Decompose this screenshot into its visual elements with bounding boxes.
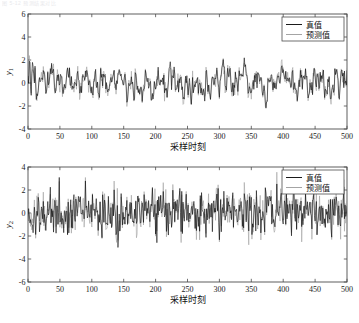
y-tick-label: 0 — [22, 79, 26, 88]
y-tick-label: 2 — [22, 56, 26, 65]
y-tick-label: 6 — [22, 10, 26, 19]
x-tick-label: 50 — [56, 132, 64, 141]
subplot-top: 050100150200250300350400450500-4-20246采样… — [0, 0, 359, 161]
x-axis-label: 采样时刻 — [170, 294, 206, 305]
x-tick-label: 350 — [245, 132, 257, 141]
legend-label: 预测值 — [306, 30, 330, 40]
legend-label: 真值 — [306, 20, 322, 30]
x-tick-label: 300 — [213, 132, 225, 141]
y-tick-label: -6 — [19, 278, 26, 287]
x-tick-label: 250 — [182, 132, 194, 141]
x-tick-label: 300 — [213, 285, 225, 294]
x-tick-label: 0 — [26, 132, 30, 141]
x-tick-label: 200 — [150, 285, 162, 294]
x-tick-label: 350 — [245, 285, 257, 294]
y-axis-label: y2 — [3, 221, 14, 229]
chart-canvas-top: 050100150200250300350400450500-4-20246采样… — [0, 0, 359, 161]
svg-text:y2: y2 — [3, 221, 14, 229]
legend: 真值预测值 — [282, 170, 344, 194]
legend-label: 真值 — [306, 173, 322, 183]
x-tick-label: 100 — [86, 285, 98, 294]
x-tick-label: 400 — [277, 285, 289, 294]
x-tick-label: 450 — [309, 285, 321, 294]
y-tick-label: -4 — [19, 125, 26, 134]
subplot-bottom: 050100150200250300350400450500-6-4-2024采… — [0, 161, 359, 322]
x-tick-label: 500 — [341, 132, 353, 141]
x-tick-label: 150 — [118, 132, 130, 141]
y-tick-label: -4 — [19, 255, 26, 264]
y-tick-label: 0 — [22, 209, 26, 218]
legend: 真值预测值 — [282, 17, 344, 41]
legend-label: 预测值 — [306, 183, 330, 193]
x-tick-label: 50 — [56, 285, 64, 294]
y-axis-label: y1 — [3, 68, 14, 76]
x-tick-label: 0 — [26, 285, 30, 294]
y-tick-label: 4 — [22, 163, 26, 172]
x-tick-label: 250 — [182, 285, 194, 294]
x-tick-label: 400 — [277, 132, 289, 141]
figure-root: 图 5-12 预测结果对比 05010015020025030035040045… — [0, 0, 359, 323]
y-tick-label: 2 — [22, 186, 26, 195]
x-tick-label: 500 — [341, 285, 353, 294]
x-tick-label: 200 — [150, 132, 162, 141]
y-tick-label: 4 — [22, 33, 26, 42]
x-axis-label: 采样时刻 — [170, 141, 206, 152]
x-tick-label: 450 — [309, 132, 321, 141]
y-tick-label: -2 — [19, 232, 26, 241]
x-tick-label: 100 — [86, 132, 98, 141]
chart-canvas-bottom: 050100150200250300350400450500-6-4-2024采… — [0, 161, 359, 323]
svg-text:y1: y1 — [3, 68, 14, 76]
x-tick-label: 150 — [118, 285, 130, 294]
y-tick-label: -2 — [19, 102, 26, 111]
